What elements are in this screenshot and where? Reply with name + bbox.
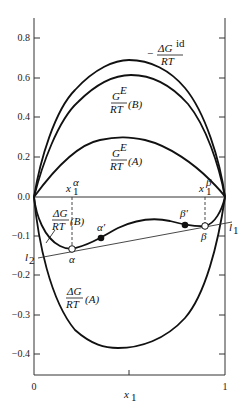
y-tick-0.2: 0.2 bbox=[18, 151, 31, 162]
svg-text:2: 2 bbox=[29, 254, 35, 266]
svg-text:1: 1 bbox=[131, 391, 137, 403]
y-tick-0.4: 0.4 bbox=[18, 111, 31, 122]
svg-text:x: x bbox=[123, 388, 129, 400]
label-neg-dgid: − ΔG id RT bbox=[147, 37, 185, 67]
x-axis-label: x 1 bbox=[123, 388, 137, 403]
svg-text:l: l bbox=[25, 251, 28, 263]
svg-text:(B): (B) bbox=[70, 215, 84, 228]
curve-neg-dgid bbox=[34, 60, 225, 197]
chart: 0.8 0.6 0.4 0.2 0.0 −0.1 −0.2 −0.3 −0.4 … bbox=[0, 0, 248, 408]
label-l1: l 1 bbox=[229, 221, 239, 236]
svg-text:(B): (B) bbox=[128, 98, 142, 111]
label-alpha-prime: α′ bbox=[97, 221, 106, 233]
svg-text:G: G bbox=[112, 147, 120, 159]
svg-text:id: id bbox=[176, 37, 185, 49]
point-alpha-prime bbox=[98, 235, 105, 242]
svg-text:1: 1 bbox=[233, 224, 239, 236]
svg-text:−: − bbox=[147, 47, 153, 59]
svg-text:RT: RT bbox=[65, 298, 80, 310]
svg-text:1: 1 bbox=[206, 185, 212, 197]
label-ge-a: G E RT (A) bbox=[109, 141, 142, 172]
label-x1-beta: x β 1 bbox=[198, 176, 212, 197]
y-tick-neg0.3: −0.3 bbox=[12, 309, 30, 320]
svg-text:x: x bbox=[65, 182, 71, 194]
label-dg-b: ΔG RT (B) bbox=[46, 207, 84, 243]
svg-text:ΔG: ΔG bbox=[157, 42, 172, 54]
curve-ge-b bbox=[34, 75, 225, 197]
svg-text:E: E bbox=[119, 141, 127, 153]
label-beta-prime: β′ bbox=[179, 207, 188, 219]
point-alpha bbox=[69, 246, 76, 253]
point-beta-prime bbox=[182, 222, 189, 229]
svg-text:1: 1 bbox=[73, 185, 79, 197]
y-tick-0.0: 0.0 bbox=[18, 191, 31, 202]
y-tick-neg0.1: −0.1 bbox=[12, 230, 30, 241]
x-tick-0: 0 bbox=[32, 381, 37, 392]
point-beta bbox=[202, 223, 209, 230]
label-dg-a: ΔG RT (A) bbox=[65, 285, 99, 310]
svg-text:E: E bbox=[119, 84, 127, 96]
label-x1-alpha: x α 1 bbox=[65, 176, 79, 197]
svg-text:RT: RT bbox=[51, 220, 66, 232]
svg-text:x: x bbox=[198, 182, 204, 194]
svg-text:(A): (A) bbox=[128, 155, 142, 168]
svg-text:RT: RT bbox=[109, 160, 124, 172]
x-tick-1: 1 bbox=[223, 381, 228, 392]
label-beta: β bbox=[200, 230, 207, 242]
svg-text:ΔG: ΔG bbox=[52, 207, 67, 219]
curve-ge-a bbox=[34, 137, 225, 197]
y-tick-labels: 0.8 0.6 0.4 0.2 0.0 −0.1 −0.2 −0.3 −0.4 bbox=[12, 32, 30, 359]
label-l2: l 2 bbox=[25, 251, 35, 266]
y-tick-neg0.4: −0.4 bbox=[12, 348, 30, 359]
svg-text:l: l bbox=[229, 221, 232, 233]
axes bbox=[34, 18, 225, 375]
label-alpha: α bbox=[69, 253, 75, 265]
svg-text:RT: RT bbox=[109, 103, 124, 115]
label-ge-b: G E RT (B) bbox=[109, 84, 142, 115]
y-tick-0.6: 0.6 bbox=[18, 72, 31, 83]
svg-text:G: G bbox=[112, 90, 120, 102]
y-tick-0.8: 0.8 bbox=[18, 32, 31, 43]
y-tick-neg0.2: −0.2 bbox=[12, 269, 30, 280]
svg-text:ΔG: ΔG bbox=[66, 285, 81, 297]
svg-text:RT: RT bbox=[160, 55, 175, 67]
svg-text:(A): (A) bbox=[85, 293, 99, 306]
